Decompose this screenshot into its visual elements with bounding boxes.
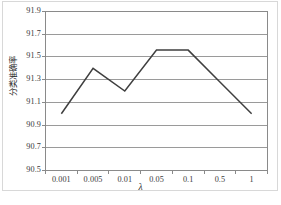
x-axis-title: λ bbox=[0, 182, 281, 192]
y-tick-label: 90.9 bbox=[11, 120, 41, 129]
y-tick-label: 91.7 bbox=[11, 29, 41, 38]
y-axis-title: 分类准确率 bbox=[6, 48, 18, 104]
data-series-line bbox=[61, 50, 251, 114]
axis-lines-group bbox=[46, 12, 268, 171]
y-tick-label: 90.7 bbox=[11, 142, 41, 151]
gridlines-group bbox=[46, 12, 268, 148]
chart-figure: 90.590.790.991.191.391.591.791.9 0.0010.… bbox=[0, 0, 281, 205]
y-tick-label: 91.9 bbox=[11, 6, 41, 15]
y-tick-label: 90.5 bbox=[11, 165, 41, 174]
